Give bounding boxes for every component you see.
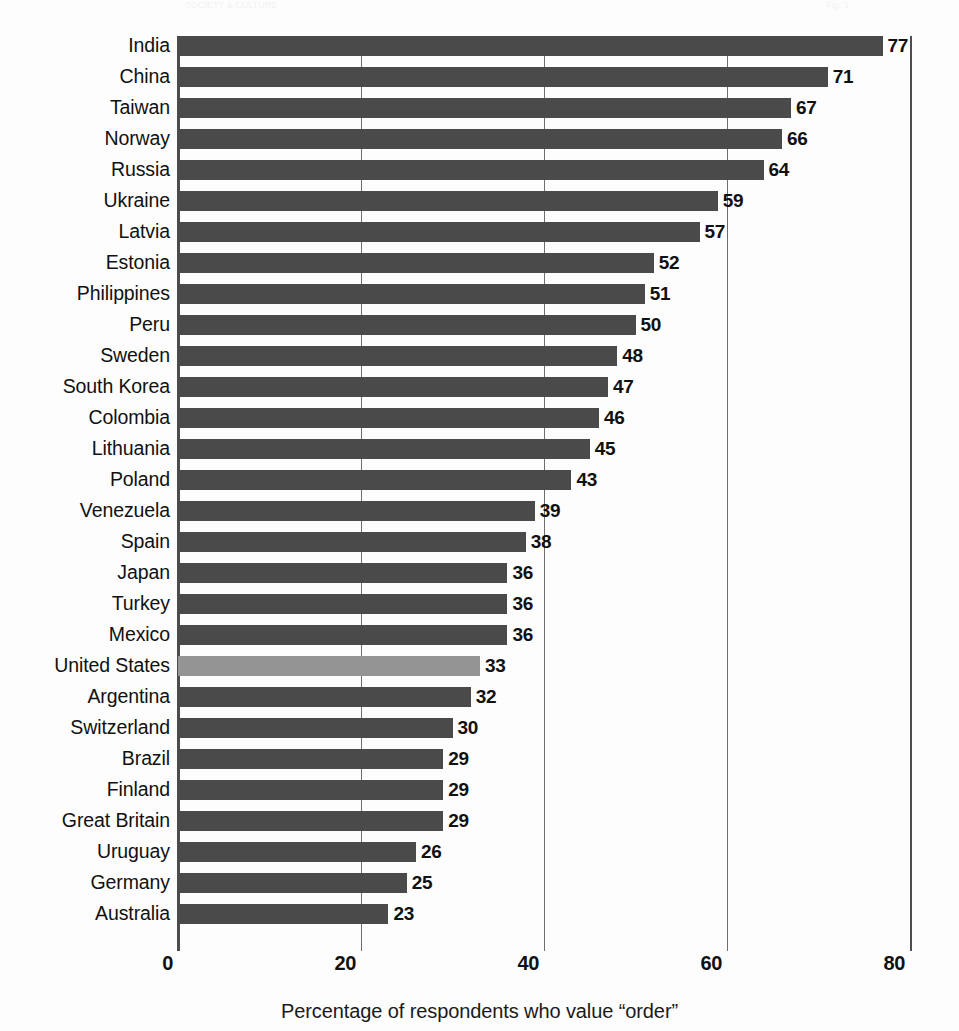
category-label: Mexico <box>2 623 170 646</box>
category-label: Switzerland <box>2 716 170 739</box>
bar <box>178 191 718 211</box>
category-label: Germany <box>2 871 170 894</box>
bar <box>178 501 535 521</box>
category-label: Poland <box>2 468 170 491</box>
bar <box>178 718 453 738</box>
category-label: Sweden <box>2 344 170 367</box>
bar-row: 25 <box>178 873 910 893</box>
category-label: South Korea <box>2 375 170 398</box>
bar <box>178 36 883 56</box>
bar-value-label: 66 <box>787 128 808 150</box>
x-axis-caption: Percentage of respondents who value “ord… <box>0 1000 959 1023</box>
bar <box>178 842 416 862</box>
bar <box>178 780 443 800</box>
plot-area: 7771676664595752515048474645433938363636… <box>178 36 910 942</box>
bar-row: 36 <box>178 594 910 614</box>
x-tick-label-60: 60 <box>701 952 727 975</box>
bar <box>178 439 590 459</box>
bar-row: 46 <box>178 408 910 428</box>
bar-value-label: 46 <box>604 407 625 429</box>
category-label: Uruguay <box>2 840 170 863</box>
bar-value-label: 51 <box>650 283 671 305</box>
bar-row: 39 <box>178 501 910 521</box>
x-tick-label-20: 20 <box>335 952 361 975</box>
bar <box>178 222 700 242</box>
bar-row: 66 <box>178 129 910 149</box>
bar-value-label: 50 <box>641 314 662 336</box>
bar-value-label: 45 <box>595 438 616 460</box>
bar-value-label: 48 <box>622 345 643 367</box>
bar-row: 36 <box>178 625 910 645</box>
horizontal-bar-chart: IndiaChinaTaiwanNorwayRussiaUkraineLatvi… <box>0 0 959 1031</box>
bar-row: 30 <box>178 718 910 738</box>
category-label: Spain <box>2 530 170 553</box>
bar <box>178 253 654 273</box>
bar-value-label: 59 <box>723 190 744 212</box>
bar-row: 36 <box>178 563 910 583</box>
bar-row: 48 <box>178 346 910 366</box>
bar-row: 32 <box>178 687 910 707</box>
category-label: Australia <box>2 902 170 925</box>
bar-value-label: 39 <box>540 500 561 522</box>
category-label: Great Britain <box>2 809 170 832</box>
category-label: Argentina <box>2 685 170 708</box>
bar-row: 64 <box>178 160 910 180</box>
bar-value-label: 25 <box>412 872 433 894</box>
bar-row: 26 <box>178 842 910 862</box>
category-label: United States <box>2 654 170 677</box>
bar-row: 50 <box>178 315 910 335</box>
bar-value-label: 77 <box>888 35 909 57</box>
bar <box>178 67 828 87</box>
bar <box>178 160 764 180</box>
bar-row: 52 <box>178 253 910 273</box>
bar-value-label: 71 <box>833 66 854 88</box>
bar-row: 33 <box>178 656 910 676</box>
bar <box>178 315 636 335</box>
bar <box>178 346 617 366</box>
bar-row: 29 <box>178 811 910 831</box>
x-tick-label-80: 80 <box>884 952 910 975</box>
x-tick-label-40: 40 <box>518 952 544 975</box>
x-tick-label-0: 0 <box>162 952 178 975</box>
category-label: Estonia <box>2 251 170 274</box>
bar-value-label: 47 <box>613 376 634 398</box>
bar-value-label: 38 <box>531 531 552 553</box>
bar-value-label: 33 <box>485 655 506 677</box>
bar-value-label: 64 <box>769 159 790 181</box>
category-label: Turkey <box>2 592 170 615</box>
bar <box>178 563 507 583</box>
bar-value-label: 29 <box>448 810 469 832</box>
bar-value-label: 52 <box>659 252 680 274</box>
bar-row: 29 <box>178 780 910 800</box>
bar-row: 45 <box>178 439 910 459</box>
category-label: Philippines <box>2 282 170 305</box>
bar-value-label: 30 <box>458 717 479 739</box>
category-label: Colombia <box>2 406 170 429</box>
category-label: Japan <box>2 561 170 584</box>
bar <box>178 625 507 645</box>
bar-row: 71 <box>178 67 910 87</box>
bar-highlight <box>178 656 480 676</box>
bar <box>178 687 471 707</box>
bar <box>178 749 443 769</box>
bar-value-label: 67 <box>796 97 817 119</box>
bar-row: 29 <box>178 749 910 769</box>
bar-value-label: 36 <box>512 593 533 615</box>
category-label: India <box>2 34 170 57</box>
category-label: Latvia <box>2 220 170 243</box>
bar <box>178 594 507 614</box>
bar <box>178 811 443 831</box>
category-label: Finland <box>2 778 170 801</box>
bar-row: 57 <box>178 222 910 242</box>
category-label: Venezuela <box>2 499 170 522</box>
gridline-80 <box>910 36 912 951</box>
bar <box>178 408 599 428</box>
bar <box>178 470 571 490</box>
bar-row: 67 <box>178 98 910 118</box>
bar <box>178 129 782 149</box>
category-label: Brazil <box>2 747 170 770</box>
category-label: Lithuania <box>2 437 170 460</box>
chart-page: SOCIETY & CULTURE Fig. 1 IndiaChinaTaiwa… <box>0 0 959 1031</box>
bar <box>178 873 407 893</box>
bar-value-label: 29 <box>448 748 469 770</box>
